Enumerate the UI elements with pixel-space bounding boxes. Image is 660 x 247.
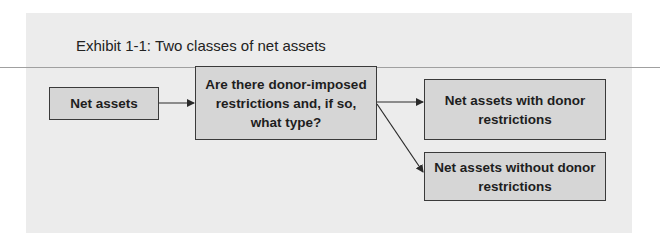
node-net-assets: Net assets: [49, 87, 159, 120]
node-question: Are there donor-imposed restrictions and…: [195, 66, 377, 140]
node-with-donor-restrictions: Net assets with donor restrictions: [424, 79, 606, 140]
arrow-question-to-without: [377, 104, 423, 172]
node-without-donor-restrictions: Net assets without donor restrictions: [424, 152, 606, 201]
